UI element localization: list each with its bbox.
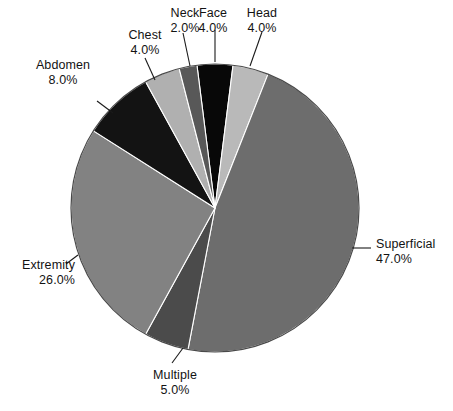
pie-label-value-multiple: 5.0% bbox=[138, 383, 212, 398]
pie-label-superficial: Superficial47.0% bbox=[376, 237, 435, 266]
pie-label-value-head: 4.0% bbox=[225, 21, 299, 36]
leader-line-abdomen bbox=[97, 101, 113, 113]
pie-label-value-superficial: 47.0% bbox=[376, 252, 435, 267]
pie-label-name-extremity: Extremity bbox=[0, 258, 75, 273]
pie-label-multiple: Multiple5.0% bbox=[138, 368, 212, 397]
pie-label-name-superficial: Superficial bbox=[376, 237, 435, 252]
leader-line-chest bbox=[145, 58, 155, 80]
pie-label-value-neck: 2.0% bbox=[148, 21, 222, 36]
pie-label-value-abdomen: 8.0% bbox=[26, 73, 100, 88]
pie-label-name-neck: Neck bbox=[148, 6, 222, 21]
pie-label-name-abdomen: Abdomen bbox=[26, 58, 100, 73]
pie-label-value-chest: 4.0% bbox=[108, 43, 182, 58]
pie-chart: Face4.0%Head4.0%Superficial47.0%Multiple… bbox=[0, 0, 453, 411]
pie-label-abdomen: Abdomen8.0% bbox=[26, 58, 100, 87]
pie-label-name-head: Head bbox=[225, 6, 299, 21]
pie-label-value-extremity: 26.0% bbox=[0, 273, 75, 288]
leader-line-head bbox=[250, 32, 262, 66]
pie-label-name-multiple: Multiple bbox=[138, 368, 212, 383]
pie-label-extremity: Extremity26.0% bbox=[0, 258, 75, 287]
pie-label-head: Head4.0% bbox=[225, 6, 299, 35]
leader-line-neck bbox=[183, 33, 190, 66]
pie-slices-group bbox=[71, 64, 359, 352]
pie-label-neck: Neck2.0% bbox=[148, 6, 222, 35]
leader-line-multiple bbox=[172, 348, 183, 363]
